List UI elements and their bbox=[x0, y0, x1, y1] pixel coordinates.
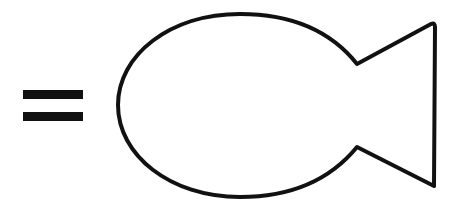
diagram-canvas bbox=[0, 0, 456, 202]
fish-outline-icon bbox=[0, 0, 456, 202]
